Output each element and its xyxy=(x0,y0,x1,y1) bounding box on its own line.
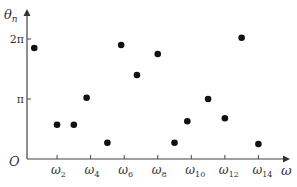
x-tick-label: ω6 xyxy=(118,163,133,179)
data-point xyxy=(104,140,111,147)
x-tick-label: ω12 xyxy=(219,163,239,179)
data-point xyxy=(154,51,161,58)
y-tick-label: 2π xyxy=(10,33,24,46)
data-point xyxy=(205,96,212,103)
data-point xyxy=(83,95,90,102)
axes xyxy=(24,9,291,163)
x-tick-label: ω4 xyxy=(85,163,100,179)
x-tick-label: ω8 xyxy=(152,163,167,179)
data-point xyxy=(118,42,125,49)
data-point xyxy=(54,122,61,129)
data-point xyxy=(255,141,262,148)
data-point xyxy=(238,35,245,42)
y-axis-label: θn xyxy=(4,7,18,24)
origin-label: O xyxy=(9,154,20,169)
x-tick-label: ω14 xyxy=(252,163,272,179)
data-point xyxy=(71,122,78,129)
y-axis-arrow-icon xyxy=(24,9,31,16)
x-tick-label: ω10 xyxy=(185,163,205,179)
data-point xyxy=(171,140,178,147)
y-tick-label: π xyxy=(17,93,24,106)
phase-scatter-chart: θn ω O ω2ω4ω6ω8ω10ω12ω14 π2π xyxy=(0,0,297,187)
data-points xyxy=(31,35,262,148)
data-point xyxy=(31,45,38,52)
y-ticks: π2π xyxy=(10,33,31,106)
x-axis-arrow-icon xyxy=(283,156,290,163)
data-point xyxy=(222,115,229,122)
data-point xyxy=(134,72,141,79)
x-axis-label: ω xyxy=(281,163,292,178)
data-point xyxy=(184,118,191,125)
x-tick-label: ω2 xyxy=(51,163,66,179)
